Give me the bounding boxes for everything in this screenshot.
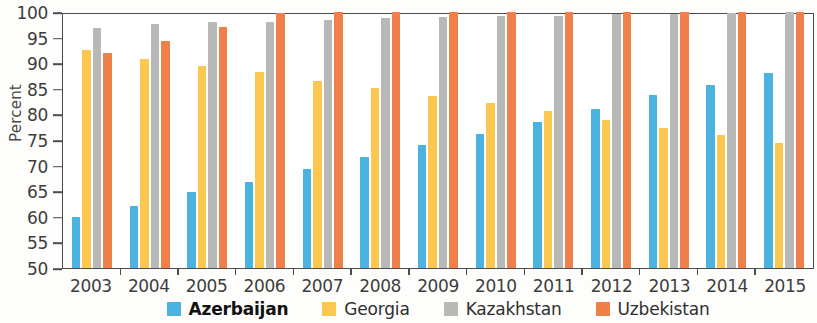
legend-item-kazakhstan[interactable]: Kazakhstan [444, 299, 562, 319]
bar-group-2009 [409, 14, 467, 268]
bar-group-2008 [351, 14, 409, 268]
bar-kazakhstan-2006 [266, 22, 275, 268]
bar-uzbekistan-2009 [449, 12, 458, 268]
bar-uzbekistan-2015 [796, 12, 805, 268]
bar-georgia-2008 [371, 88, 380, 268]
bar-kazakhstan-2011 [554, 16, 563, 268]
legend-swatch-icon [444, 302, 458, 316]
bar-azerbaijan-2005 [187, 192, 196, 268]
bar-group-2012 [582, 14, 640, 268]
bar-group-2015 [755, 14, 813, 268]
legend-item-uzbekistan[interactable]: Uzbekistan [596, 299, 710, 319]
chart-legend: AzerbaijanGeorgiaKazakhstanUzbekistan [62, 297, 814, 321]
bar-kazakhstan-2007 [324, 20, 333, 268]
bar-azerbaijan-2003 [72, 217, 81, 268]
y-axis-tick-mark [53, 63, 62, 65]
y-axis-tick-mark [53, 166, 62, 168]
legend-swatch-icon [596, 302, 610, 316]
bar-azerbaijan-2015 [764, 73, 773, 268]
bar-azerbaijan-2004 [130, 206, 139, 268]
bar-georgia-2014 [717, 135, 726, 268]
y-axis-tick-70: 70 [27, 158, 48, 175]
bar-azerbaijan-2014 [706, 85, 715, 268]
legend-label: Uzbekistan [618, 299, 710, 319]
bar-groups [63, 14, 813, 268]
legend-label: Azerbaijan [189, 299, 289, 319]
legend-label: Kazakhstan [466, 299, 562, 319]
bar-uzbekistan-2005 [219, 27, 228, 268]
y-axis-tick-labels: 10095908580757065605550 [0, 0, 62, 290]
y-axis-tick-80: 80 [27, 107, 48, 124]
bar-georgia-2012 [602, 120, 611, 268]
bar-uzbekistan-2013 [680, 12, 689, 268]
legend-label: Georgia [344, 299, 409, 319]
bar-uzbekistan-2012 [623, 12, 632, 268]
y-axis-tick-mark [53, 140, 62, 142]
y-axis-tick-55: 55 [27, 235, 48, 252]
bar-georgia-2003 [82, 50, 91, 268]
legend-item-azerbaijan[interactable]: Azerbaijan [167, 299, 289, 319]
bar-azerbaijan-2012 [591, 109, 600, 268]
y-axis-tick-75: 75 [27, 133, 48, 150]
bar-group-2005 [178, 14, 236, 268]
legend-swatch-icon [167, 302, 181, 316]
y-axis-tick-mark [53, 217, 62, 219]
bar-kazakhstan-2004 [151, 24, 160, 268]
bar-georgia-2004 [140, 59, 149, 268]
bar-uzbekistan-2004 [161, 41, 170, 268]
plot-area [62, 13, 814, 269]
bar-group-2007 [294, 14, 352, 268]
y-axis-tick-100: 100 [16, 5, 48, 22]
bar-georgia-2007 [313, 81, 322, 268]
bar-kazakhstan-2005 [208, 22, 217, 268]
y-axis-tick-mark [53, 38, 62, 40]
y-axis-tick-mark [53, 268, 62, 270]
bar-georgia-2009 [428, 96, 437, 268]
bar-uzbekistan-2007 [334, 12, 343, 268]
bar-kazakhstan-2015 [785, 12, 794, 268]
y-axis-tick-mark [53, 191, 62, 193]
bar-uzbekistan-2010 [507, 12, 516, 268]
bar-georgia-2015 [775, 143, 784, 268]
bar-uzbekistan-2003 [103, 53, 112, 268]
bar-kazakhstan-2010 [497, 16, 506, 268]
bar-uzbekistan-2014 [738, 12, 747, 268]
bar-group-2010 [467, 14, 525, 268]
y-axis-tick-95: 95 [27, 30, 48, 47]
bar-kazakhstan-2003 [93, 28, 102, 268]
bar-uzbekistan-2011 [565, 12, 574, 268]
y-axis-tick-mark [53, 243, 62, 245]
bar-kazakhstan-2014 [727, 13, 736, 268]
bar-uzbekistan-2008 [392, 12, 401, 268]
bar-group-2004 [121, 14, 179, 268]
bar-azerbaijan-2007 [303, 169, 312, 268]
bar-azerbaijan-2010 [476, 134, 485, 268]
bar-azerbaijan-2008 [360, 157, 369, 268]
y-axis-tick-60: 60 [27, 209, 48, 226]
bar-georgia-2010 [486, 103, 495, 268]
bar-group-2006 [236, 14, 294, 268]
bar-azerbaijan-2009 [418, 145, 427, 268]
legend-swatch-icon [322, 302, 336, 316]
bar-group-2003 [63, 14, 121, 268]
y-axis-tick-50: 50 [27, 261, 48, 278]
bar-georgia-2006 [255, 72, 264, 268]
y-axis-tick-65: 65 [27, 184, 48, 201]
bar-kazakhstan-2012 [612, 14, 621, 268]
y-axis-tick-90: 90 [27, 56, 48, 73]
bar-kazakhstan-2013 [670, 14, 679, 268]
bar-group-2014 [698, 14, 756, 268]
bar-group-2011 [525, 14, 583, 268]
bar-kazakhstan-2008 [381, 18, 390, 268]
bar-georgia-2005 [198, 66, 207, 268]
y-axis-tick-85: 85 [27, 81, 48, 98]
y-axis-tick-mark [53, 12, 62, 14]
bar-chart-figure: Percent 10095908580757065605550 20032004… [0, 0, 817, 323]
bar-azerbaijan-2006 [245, 182, 254, 268]
bar-kazakhstan-2009 [439, 17, 448, 268]
y-axis-tick-mark [53, 115, 62, 117]
legend-item-georgia[interactable]: Georgia [322, 299, 409, 319]
y-axis-tick-mark [53, 89, 62, 91]
bar-azerbaijan-2013 [649, 95, 658, 268]
bar-azerbaijan-2011 [533, 122, 542, 268]
